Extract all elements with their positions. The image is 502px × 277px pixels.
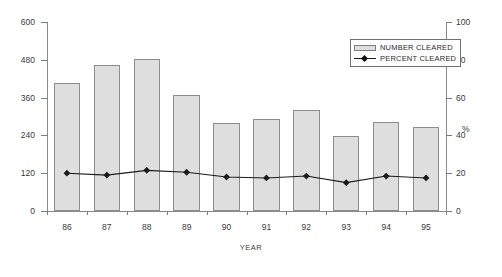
y-axis-right-tick [446, 98, 452, 99]
bar [173, 95, 199, 211]
chart-legend: NUMBER CLEARED PERCENT CLEARED [350, 39, 461, 67]
x-axis-tick [127, 211, 128, 215]
x-axis-tick [366, 211, 367, 215]
y-axis-left [47, 22, 48, 211]
bar [413, 127, 439, 211]
x-axis-tick [87, 211, 88, 215]
y-axis-right-tick-label: 0 [456, 206, 461, 216]
y-axis-left-tick [41, 22, 48, 23]
x-axis-tick-label: 93 [334, 222, 358, 232]
x-axis-tick-label: 88 [135, 222, 159, 232]
legend-entry-percent-cleared: PERCENT CLEARED [354, 53, 456, 64]
bar [373, 122, 399, 211]
y-axis-left-tick-label: 600 [5, 17, 35, 27]
x-axis-tick [47, 211, 48, 215]
bar [94, 65, 120, 211]
x-axis-tick-label: 94 [374, 222, 398, 232]
y-axis-left-tick-label: 480 [5, 55, 35, 65]
x-axis-tick-label: 90 [215, 222, 239, 232]
x-axis-tick [406, 211, 407, 215]
bar [54, 83, 80, 211]
x-axis-tick [247, 211, 248, 215]
y-axis-left-tick-label: 240 [5, 130, 35, 140]
y-axis-left-tick [41, 135, 48, 136]
y-axis-left-tick [41, 60, 48, 61]
bar [293, 110, 319, 211]
bar [134, 59, 160, 211]
y-axis-left-tick-label: 0 [5, 206, 35, 216]
y-axis-right-tick-label: 20 [456, 168, 465, 178]
y-axis-right-tick [446, 173, 452, 174]
x-axis-tick [207, 211, 208, 215]
x-axis-tick [286, 211, 287, 215]
y-axis-right-tick [446, 22, 452, 23]
x-axis-tick-label: 86 [55, 222, 79, 232]
x-axis-tick [446, 211, 447, 215]
y-axis-left-tick [41, 98, 48, 99]
bar [253, 119, 279, 211]
legend-entry-number-cleared: NUMBER CLEARED [354, 42, 456, 53]
x-axis-tick-label: 92 [294, 222, 318, 232]
x-axis-tick [326, 211, 327, 215]
y-axis-left-tick-label: 360 [5, 93, 35, 103]
y-axis-right-tick [446, 135, 452, 136]
bar-swatch-icon [354, 45, 376, 51]
y-axis-left-tick-label: 120 [5, 168, 35, 178]
x-axis-tick-label: 89 [175, 222, 199, 232]
line-marker-swatch-icon [354, 55, 376, 62]
x-axis-tick-label: 95 [414, 222, 438, 232]
bar [213, 123, 239, 211]
y-axis-right-tick-label: 60 [456, 93, 465, 103]
y-axis-left-tick [41, 173, 48, 174]
y-axis-right-title: % [462, 124, 470, 134]
legend-label-percent-cleared: PERCENT CLEARED [380, 54, 456, 63]
legend-label-number-cleared: NUMBER CLEARED [380, 43, 453, 52]
chart-container: 0120240360480600 020406080100 % 86878889… [0, 0, 502, 277]
bar [333, 136, 359, 211]
y-axis-right-tick-label: 100 [456, 17, 470, 27]
x-axis-tick-label: 87 [95, 222, 119, 232]
x-axis-title: YEAR [0, 243, 502, 252]
x-axis-tick [167, 211, 168, 215]
x-axis-tick-label: 91 [254, 222, 278, 232]
